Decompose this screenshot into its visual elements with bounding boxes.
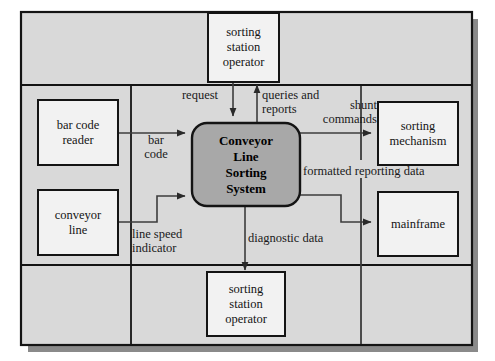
entity-label-mainframe: mainframe [378,192,458,256]
entity-label-line: reader [62,133,93,148]
entity-label-sorting-station-operator-top: sorting station operator [208,13,279,82]
entity-label-sorting-mechanism: sorting mechanism [376,102,460,165]
entity-label-line: bar code [57,118,100,133]
entity-label-line: mainframe [391,217,445,232]
flow-label-formatted-reporting-data: formatted reporting data [303,164,467,178]
flow-label-line: request [168,88,232,102]
flow-label-line: indicator [132,241,206,255]
flow-label-line: bar [134,133,178,147]
entity-label-line: sorting [401,119,436,134]
flow-label-bar-code: bar code [134,133,178,161]
flow-label-diagnostic-data: diagnostic data [248,231,354,245]
flow-label-line: commands [301,112,377,126]
flow-label-line: line speed [132,227,206,241]
process-label-line: Sorting [225,165,266,181]
entity-label-line: operator [225,312,267,327]
entity-label-line: sorting [226,25,261,40]
flow-label-line-speed-indicator: line speed indicator [132,227,206,255]
flow-label-shunt-commands: shunt commands [301,98,377,126]
entity-label-line: conveyor [55,208,102,223]
flow-label-request: request [168,88,232,102]
flow-label-line: code [134,147,178,161]
entity-label-line: station [227,40,260,55]
entity-label-line: station [229,297,262,312]
flow-label-line: formatted reporting data [303,164,467,178]
entity-label-bar-code-reader: bar code reader [38,100,118,165]
flow-label-line: shunt [301,98,377,112]
diagram-canvas: sorting station operator bar code reader… [0,0,495,361]
process-label-line: Conveyor [219,133,273,149]
process-label-line: System [226,181,266,197]
entity-label-line: line [69,223,88,238]
entity-label-sorting-station-operator-bottom: sorting station operator [207,272,285,336]
entity-label-line: operator [223,55,265,70]
entity-label-line: sorting [229,282,264,297]
entity-label-line: mechanism [390,134,447,149]
process-label-line: Line [233,149,258,165]
entity-label-conveyor-line: conveyor line [38,190,118,255]
flow-label-line: diagnostic data [248,231,354,245]
process-label-conveyor-line-sorting-system: Conveyor Line Sorting System [192,123,300,206]
